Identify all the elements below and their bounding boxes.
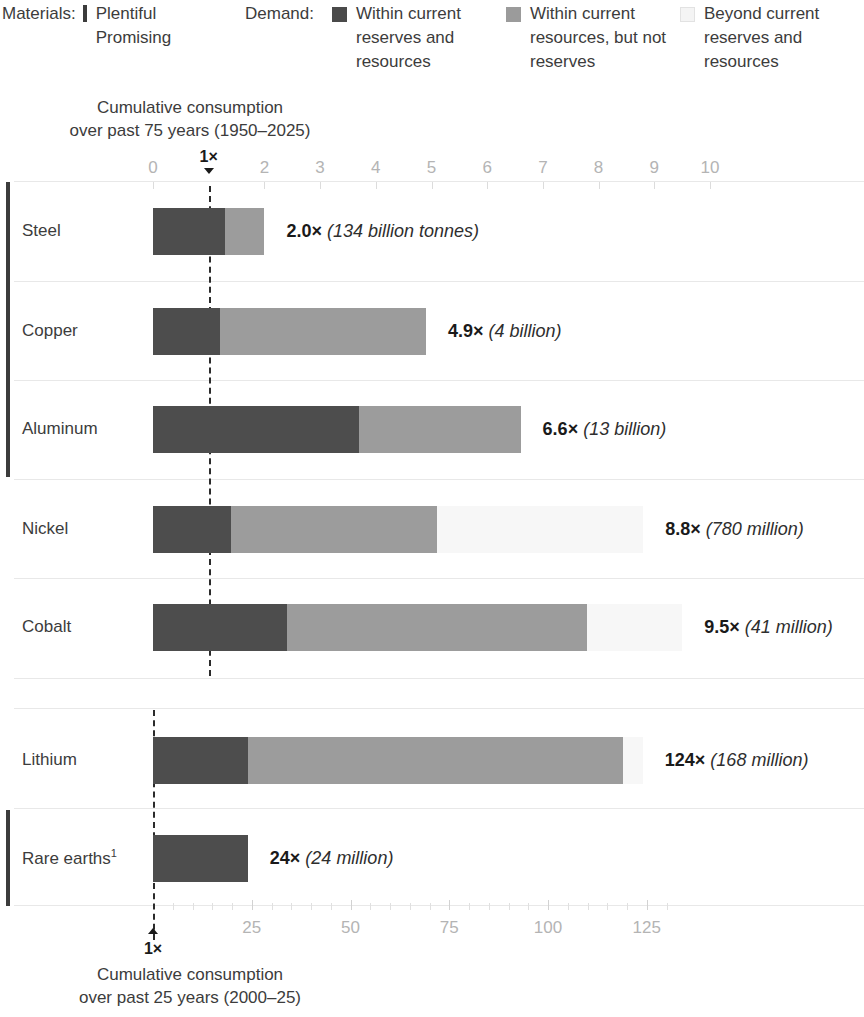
bar-nickel — [153, 506, 643, 553]
top-axis-tick-mark-0 — [153, 182, 154, 189]
row-separator-1 — [14, 281, 864, 282]
bottom-axis-tick-mark-1 — [193, 903, 194, 910]
bottom-axis-tick-1: 50 — [341, 918, 360, 938]
bottom-axis-caption-line2: over past 25 years (2000–25) — [0, 986, 380, 1009]
bar-segment-2 — [437, 506, 643, 553]
bottom-axis-1x-label: 1× — [144, 940, 162, 958]
value-label-rare-earths: 24× (24 million) — [270, 848, 394, 869]
bar-segment-0 — [153, 835, 248, 882]
top-axis-tick-mark-3 — [320, 182, 321, 189]
top-axis-tick-10: 10 — [701, 158, 720, 178]
bottom-axis-1x-arrow-icon — [148, 928, 158, 934]
bar-copper — [153, 308, 426, 355]
bottom-axis-tick-mark-10 — [370, 903, 371, 910]
bottom-axis-tick-mark-9 — [351, 900, 352, 910]
bar-segment-1 — [231, 506, 437, 553]
top-axis-tick-9: 9 — [650, 158, 659, 178]
top-axis-tick-mark-2 — [264, 182, 265, 189]
bottom-axis-tick-mark-11 — [390, 903, 391, 910]
value-multiplier: 2.0× — [286, 221, 322, 241]
bottom-axis-tick-mark-5 — [272, 903, 273, 910]
bottom-axis-tick-mark-18 — [528, 903, 529, 910]
bar-segment-0 — [153, 737, 248, 784]
bottom-axis-tick-mark-0 — [173, 903, 174, 910]
bottom-axis-tick-mark-4 — [252, 900, 253, 910]
bar-segment-0 — [153, 604, 287, 651]
bottom-axis-tick-4: 125 — [633, 918, 661, 938]
top-axis-tick-4: 4 — [371, 158, 380, 178]
bottom-axis-tick-0: 25 — [242, 918, 261, 938]
bar-segment-2 — [587, 604, 682, 651]
footnote-marker: 1 — [111, 847, 117, 859]
row-separator-4 — [14, 578, 864, 579]
bottom-axis-caption-line1: Cumulative consumption — [0, 963, 380, 986]
row-separator-3 — [14, 479, 864, 480]
group-bracket-promising — [6, 810, 10, 906]
top-axis-tick-3: 3 — [315, 158, 324, 178]
value-label-cobalt: 9.5× (41 million) — [704, 617, 833, 638]
bottom-axis-tick-mark-8 — [331, 903, 332, 910]
bottom-axis-tick-mark-15 — [469, 903, 470, 910]
bottom-axis-tick-mark-6 — [291, 903, 292, 910]
group-bracket-plentiful — [6, 182, 10, 477]
bottom-axis-tick-mark-16 — [489, 903, 490, 910]
value-multiplier: 8.8× — [665, 519, 701, 539]
value-absolute: (41 million) — [745, 617, 833, 637]
bottom-axis-tick-mark-13 — [430, 903, 431, 910]
bar-segment-0 — [153, 308, 220, 355]
row-label-steel: Steel — [22, 221, 61, 241]
bar-segment-1 — [220, 308, 426, 355]
bar-segment-1 — [225, 208, 264, 255]
value-absolute: (168 million) — [710, 750, 808, 770]
row-label-copper: Copper — [22, 321, 78, 341]
top-axis-tick-0: 0 — [148, 158, 157, 178]
bottom-axis-tick-mark-25 — [667, 903, 668, 910]
bottom-axis-tick-mark-24 — [647, 900, 648, 910]
row-label-lithium: Lithium — [22, 750, 77, 770]
bottom-axis-tick-mark-7 — [311, 903, 312, 910]
bottom-axis-tick-mark-12 — [410, 903, 411, 910]
top-axis-1x-arrow-icon — [204, 168, 214, 174]
top-axis-tick-mark-6 — [487, 182, 488, 189]
bar-cobalt — [153, 604, 682, 651]
chart-plot-area: 01×2345678910Steel2.0× (134 billion tonn… — [0, 0, 864, 1017]
value-label-lithium: 124× (168 million) — [665, 750, 809, 771]
bottom-axis-tick-mark-3 — [232, 903, 233, 910]
bottom-axis-tick-mark-19 — [548, 900, 549, 910]
value-multiplier: 124× — [665, 750, 706, 770]
bottom-axis-tick-mark-23 — [627, 903, 628, 910]
bottom-axis-tick-mark-20 — [568, 903, 569, 910]
top-axis-tick-mark-9 — [654, 182, 655, 189]
value-absolute: (780 million) — [706, 519, 804, 539]
row-separator-5 — [14, 678, 864, 679]
bar-segment-1 — [359, 406, 521, 453]
value-absolute: (134 billion tonnes) — [327, 221, 479, 241]
top-axis-tick-7: 7 — [538, 158, 547, 178]
value-absolute: (4 billion) — [488, 321, 561, 341]
row-separator-8 — [14, 905, 864, 906]
bar-rare-earths — [153, 835, 248, 882]
top-axis-tick-8: 8 — [594, 158, 603, 178]
bar-segment-1 — [248, 737, 623, 784]
bottom-axis-tick-2: 75 — [440, 918, 459, 938]
value-absolute: (24 million) — [305, 848, 393, 868]
row-separator-0 — [14, 181, 864, 182]
row-label-nickel: Nickel — [22, 519, 68, 539]
row-separator-7 — [14, 808, 864, 809]
value-label-aluminum: 6.6× (13 billion) — [543, 419, 667, 440]
top-axis-tick-mark-7 — [543, 182, 544, 189]
row-separator-6 — [14, 708, 864, 709]
bottom-axis-tick-3: 100 — [534, 918, 562, 938]
bar-aluminum — [153, 406, 521, 453]
bottom-axis-tick-mark-22 — [607, 903, 608, 910]
bar-segment-2 — [623, 737, 643, 784]
top-axis-tick-mark-8 — [599, 182, 600, 189]
value-label-copper: 4.9× (4 billion) — [448, 321, 562, 342]
top-axis-tick-2: 2 — [260, 158, 269, 178]
bottom-axis-tick-mark-21 — [588, 903, 589, 910]
bar-lithium — [153, 737, 643, 784]
value-multiplier: 6.6× — [543, 419, 579, 439]
value-multiplier: 4.9× — [448, 321, 484, 341]
value-absolute: (13 billion) — [583, 419, 666, 439]
bottom-axis-tick-mark-2 — [212, 903, 213, 910]
